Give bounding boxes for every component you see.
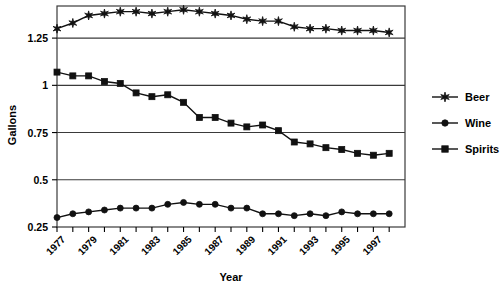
data-point: [196, 114, 202, 120]
data-point: [165, 201, 171, 207]
data-point: [149, 205, 155, 211]
y-tick-label: 1.25: [28, 32, 49, 44]
y-tick-label: 0.5: [33, 174, 48, 186]
data-point: [70, 211, 76, 217]
data-point: [307, 211, 313, 217]
data-point: [54, 69, 60, 75]
data-point: [339, 147, 345, 153]
data-point: [165, 92, 171, 98]
legend-marker-circle: [442, 120, 448, 126]
data-point: [386, 211, 392, 217]
data-point: [149, 94, 155, 100]
data-point: [133, 205, 139, 211]
y-axis-label: Gallons: [6, 105, 18, 145]
data-point: [244, 124, 250, 130]
legend-marker-square: [442, 146, 448, 152]
line-chart: 0.250.50.7511.25 19771979198119831985198…: [0, 0, 504, 287]
data-point: [260, 122, 266, 128]
data-point: [181, 99, 187, 105]
data-point: [370, 211, 376, 217]
chart-container: 0.250.50.7511.25 19771979198119831985198…: [0, 0, 504, 287]
data-point: [117, 80, 123, 86]
data-point: [133, 90, 139, 96]
legend-label: Wine: [465, 117, 491, 129]
y-tick-label: 0.25: [28, 221, 49, 233]
data-point: [307, 141, 313, 147]
data-point: [228, 120, 234, 126]
data-point: [117, 205, 123, 211]
data-point: [228, 205, 234, 211]
data-point: [355, 150, 361, 156]
data-point: [101, 79, 107, 85]
data-point: [260, 211, 266, 217]
data-point: [101, 207, 107, 213]
legend-label: Beer: [465, 91, 490, 103]
data-point: [70, 73, 76, 79]
data-point: [386, 150, 392, 156]
data-point: [196, 201, 202, 207]
x-axis-label: Year: [219, 271, 243, 283]
legend-label: Spirits: [465, 143, 499, 155]
y-tick-label: 0.75: [28, 127, 49, 139]
data-point: [244, 205, 250, 211]
data-point: [275, 211, 281, 217]
data-point: [291, 213, 297, 219]
data-point: [212, 201, 218, 207]
data-point: [86, 73, 92, 79]
data-point: [323, 213, 329, 219]
data-point: [54, 215, 60, 221]
data-point: [323, 145, 329, 151]
y-tick-label: 1: [42, 79, 48, 91]
data-point: [212, 114, 218, 120]
data-point: [370, 152, 376, 158]
data-point: [181, 199, 187, 205]
data-point: [291, 139, 297, 145]
data-point: [86, 209, 92, 215]
data-point: [355, 211, 361, 217]
data-point: [275, 128, 281, 134]
data-point: [339, 209, 345, 215]
